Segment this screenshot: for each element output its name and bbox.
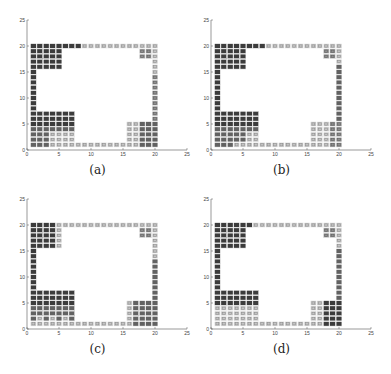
grid-cell xyxy=(323,49,329,54)
grid-cell xyxy=(69,322,75,327)
grid-cell xyxy=(107,143,113,148)
grid-cell xyxy=(37,306,43,311)
grid-cell xyxy=(152,70,158,75)
grid-cell xyxy=(50,244,56,249)
grid-cell xyxy=(133,301,139,306)
grid-cell xyxy=(336,275,342,280)
grid-cell xyxy=(215,143,221,148)
grid-cell xyxy=(56,111,62,116)
grid-cell xyxy=(215,270,221,275)
grid-cell xyxy=(317,122,323,127)
grid-cell xyxy=(31,228,37,233)
grid-cell xyxy=(56,290,62,295)
grid-cell xyxy=(336,122,342,127)
y-tick-label: 15 xyxy=(203,69,209,75)
grid-cell xyxy=(323,301,329,306)
grid-cell xyxy=(31,322,37,327)
grid-cell xyxy=(56,228,62,233)
grid-cell xyxy=(336,228,342,233)
grid-cell xyxy=(50,49,56,54)
grid-cell xyxy=(330,311,336,316)
grid-cell xyxy=(56,132,62,137)
grid-cell xyxy=(234,322,240,327)
grid-cell xyxy=(31,132,37,137)
grid-cell xyxy=(56,49,62,54)
grid-cell xyxy=(69,117,75,122)
grid-cell xyxy=(221,127,227,132)
grid-cell xyxy=(31,301,37,306)
panel-b: 05101520250510152025 (b) xyxy=(184,0,379,187)
grid-cell xyxy=(146,122,152,127)
grid-cell xyxy=(56,223,62,228)
x-tick-label: 10 xyxy=(88,151,94,157)
grid-cell xyxy=(56,117,62,122)
grid-cell xyxy=(56,322,62,327)
grid-cell xyxy=(240,65,246,70)
grid-cell xyxy=(336,316,342,321)
grid-cell xyxy=(215,316,221,321)
grid-cell xyxy=(240,306,246,311)
grid-cell xyxy=(152,127,158,132)
grid-cell xyxy=(272,223,278,228)
grid-cell xyxy=(56,306,62,311)
grid-cell xyxy=(43,228,49,233)
grid-cell xyxy=(75,322,81,327)
grid-cell xyxy=(31,143,37,148)
grid-cell xyxy=(240,143,246,148)
grid-cell xyxy=(234,65,240,70)
grid-cell xyxy=(43,122,49,127)
y-tick-label: 10 xyxy=(19,274,25,280)
grid-cell xyxy=(37,244,43,249)
grid-cell xyxy=(227,311,233,316)
grid-cell xyxy=(139,306,145,311)
grid-cell xyxy=(56,127,62,132)
grid-cell xyxy=(227,132,233,137)
grid-cell xyxy=(336,306,342,311)
grid-cell xyxy=(234,233,240,238)
grid-cell xyxy=(240,111,246,116)
grid-cell xyxy=(56,122,62,127)
chart-d: 05101520250510152025 xyxy=(184,179,379,366)
grid-cell xyxy=(37,233,43,238)
grid-cell xyxy=(317,127,323,132)
grid-cell xyxy=(152,59,158,64)
grid-cell xyxy=(221,132,227,137)
grid-cell xyxy=(152,117,158,122)
grid-cell xyxy=(43,223,49,228)
grid-cell xyxy=(311,132,317,137)
grid-cell xyxy=(240,122,246,127)
grid-cell xyxy=(63,316,69,321)
grid-cell xyxy=(95,322,101,327)
grid-cell xyxy=(146,322,152,327)
grid-cell xyxy=(152,264,158,269)
grid-cell xyxy=(152,132,158,137)
grid-cell xyxy=(152,249,158,254)
grid-cell xyxy=(253,322,259,327)
grid-cell xyxy=(43,233,49,238)
grid-cell xyxy=(31,127,37,132)
grid-cell xyxy=(146,311,152,316)
grid-cell xyxy=(247,296,253,301)
grid-cell xyxy=(139,228,145,233)
grid-cell xyxy=(43,44,49,49)
grid-cell xyxy=(336,137,342,142)
grid-cell xyxy=(259,44,265,49)
x-tick-label: 10 xyxy=(88,330,94,336)
grid-cell xyxy=(240,290,246,295)
grid-cell xyxy=(304,322,310,327)
grid-cell xyxy=(146,127,152,132)
grid-cell xyxy=(31,49,37,54)
x-tick-label: 10 xyxy=(272,330,278,336)
grid-cell xyxy=(75,143,81,148)
grid-cell xyxy=(43,301,49,306)
grid-cell xyxy=(215,80,221,85)
grid-cell xyxy=(31,137,37,142)
grid-cell xyxy=(253,117,259,122)
grid-cell xyxy=(330,49,336,54)
grid-cell xyxy=(152,228,158,233)
x-tick-label: 20 xyxy=(336,330,342,336)
grid-cell xyxy=(152,316,158,321)
grid-cell xyxy=(69,306,75,311)
grid-cell xyxy=(50,117,56,122)
grid-cell xyxy=(266,44,272,49)
